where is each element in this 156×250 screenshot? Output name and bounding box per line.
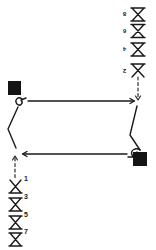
label-right-3: 4	[123, 46, 126, 52]
right-column-symbols	[131, 8, 145, 77]
top-arrow	[28, 99, 135, 104]
hourglass-icon	[9, 180, 22, 193]
label-left-2: 3	[24, 193, 28, 200]
hourglass-icon	[131, 8, 145, 21]
hourglass-icon	[131, 64, 145, 77]
label-right-4: 2	[123, 68, 126, 74]
hourglass-icon	[131, 43, 145, 56]
left-column-symbols	[9, 180, 22, 246]
left-dashed-path	[13, 156, 18, 180]
bottom-arrow	[23, 152, 128, 157]
hourglass-icon	[9, 216, 22, 229]
hourglass-icon	[131, 25, 145, 38]
left-marker	[8, 81, 21, 95]
left-path	[8, 98, 26, 148]
label-left-1: 1	[24, 175, 28, 182]
right-path	[128, 106, 145, 157]
label-left-4: 7	[24, 228, 28, 235]
label-right-2: 6	[123, 28, 126, 34]
right-marker	[133, 152, 147, 166]
hourglass-icon	[9, 233, 22, 246]
hourglass-icon	[9, 198, 22, 211]
label-right-1: 8	[123, 11, 126, 17]
label-left-3: 5	[24, 211, 28, 218]
right-dashed-path	[136, 77, 141, 100]
